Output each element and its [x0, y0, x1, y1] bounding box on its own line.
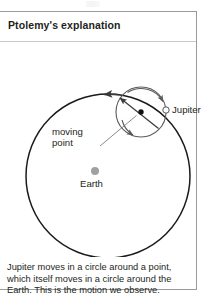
caption-line-3: Earth. This is the motion we observe.: [7, 285, 191, 297]
scan-artifact: [86, 1, 100, 7]
caption-line-2: which itself moves in a circle around th…: [7, 274, 191, 286]
figure-page: Ptolemy's explanation: [0, 0, 216, 303]
jupiter-marker: [163, 107, 169, 113]
caption-line-1: Jupiter moves in a circle around a point…: [7, 262, 191, 274]
diagram-canvas: [0, 42, 197, 257]
moving-point-dot: [138, 109, 143, 114]
panel-title-bar: Ptolemy's explanation: [0, 12, 196, 42]
epicycle-direction-arrow: [128, 88, 164, 101]
label-earth: Earth: [80, 178, 103, 189]
label-moving-point: moving point: [52, 126, 83, 148]
ptolemaic-model-diagram: Jupiter moving point Earth: [0, 42, 197, 257]
page-title: Ptolemy's explanation: [8, 19, 121, 31]
label-moving-point-line2: point: [52, 137, 83, 148]
label-moving-point-line1: moving: [52, 126, 83, 137]
moving-point-leader-line: [100, 116, 137, 147]
figure-panel: Ptolemy's explanation: [0, 11, 197, 290]
earth-dot: [91, 167, 99, 175]
label-jupiter: Jupiter: [172, 104, 201, 115]
figure-caption: Jupiter moves in a circle around a point…: [7, 262, 191, 297]
deferent-direction-arrow: [104, 94, 119, 95]
